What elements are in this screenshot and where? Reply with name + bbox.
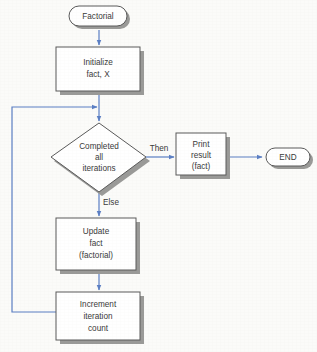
flowchart-canvas: Factorial Initialize fact, X Completed a… — [0, 0, 317, 352]
start-label: Factorial — [82, 12, 114, 21]
print-label-line1: Print — [193, 140, 211, 149]
edge-label-then: Then — [150, 144, 169, 153]
decision-label-line2: all — [95, 153, 103, 162]
decision-label-line3: iterations — [82, 164, 115, 173]
node-increment[interactable]: Increment iteration count — [56, 292, 144, 344]
decision-label-line1: Completed — [79, 142, 119, 151]
node-update[interactable]: Update fact (factorial) — [56, 218, 140, 274]
initialize-label-line1: Initialize — [83, 58, 113, 67]
initialize-label-line2: fact, X — [86, 70, 110, 79]
update-label-line2: fact — [89, 239, 103, 248]
node-initialize[interactable]: Initialize fact, X — [56, 47, 144, 95]
node-end[interactable]: END — [266, 148, 313, 169]
end-label: END — [279, 153, 296, 162]
edge-label-else: Else — [103, 198, 119, 207]
update-label-line3: (factorial) — [79, 251, 113, 260]
node-decision[interactable]: Completed all iterations — [51, 123, 150, 196]
flowchart-figure: Factorial Initialize fact, X Completed a… — [0, 0, 317, 352]
increment-label-line1: Increment — [80, 300, 117, 309]
update-label-line1: Update — [83, 227, 110, 236]
increment-label-line3: count — [88, 324, 109, 333]
print-label-line3: (fact) — [192, 162, 211, 171]
increment-label-line2: iteration — [83, 312, 113, 321]
node-start[interactable]: Factorial — [69, 6, 130, 29]
initialize-shape — [56, 47, 140, 91]
print-label-line2: result — [191, 151, 212, 160]
node-print[interactable]: Print result (fact) — [176, 133, 230, 179]
